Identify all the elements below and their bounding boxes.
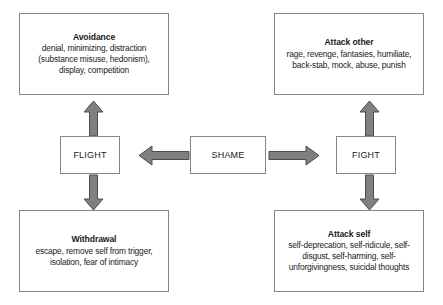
node-shame: SHAME	[190, 136, 266, 174]
node-attack-other: Attack other rage, revenge, fantasies, h…	[274, 13, 424, 95]
shame-response-flowchart: Avoidance denial, minimizing, distractio…	[0, 0, 443, 305]
arrow-shame-to-fight-icon	[268, 145, 320, 166]
node-attack-self: Attack self self-deprecation, self-ridic…	[274, 210, 424, 292]
node-fight-label: FIGHT	[352, 150, 380, 160]
node-avoidance: Avoidance denial, minimizing, distractio…	[19, 13, 169, 95]
arrow-flight-to-avoidance-icon	[83, 100, 104, 137]
node-withdrawal: Withdrawal escape, remove self from trig…	[19, 210, 169, 292]
node-flight-label: FLIGHT	[73, 150, 106, 160]
node-attack-self-title: Attack self	[328, 229, 370, 240]
node-attack-self-body: self-deprecation, self-ridicule, self-di…	[275, 240, 423, 273]
node-attack-other-title: Attack other	[325, 37, 374, 48]
node-shame-label: SHAME	[211, 150, 244, 160]
arrow-shame-to-flight-icon	[138, 145, 190, 166]
arrow-fight-to-attack-self-icon	[359, 174, 380, 211]
node-withdrawal-body: escape, remove self from trigger, isolat…	[20, 246, 168, 268]
node-withdrawal-title: Withdrawal	[72, 234, 117, 245]
node-fight: FIGHT	[336, 136, 396, 174]
arrow-flight-to-withdrawal-icon	[83, 174, 104, 211]
node-flight: FLIGHT	[60, 136, 120, 174]
arrow-fight-to-attack-other-icon	[359, 100, 380, 137]
node-avoidance-title: Avoidance	[73, 32, 115, 43]
node-avoidance-body: denial, minimizing, distraction (substan…	[20, 43, 168, 76]
node-attack-other-body: rage, revenge, fantasies, humiliate, bac…	[275, 49, 423, 71]
